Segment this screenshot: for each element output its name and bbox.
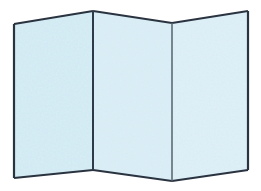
panel-right-texture	[168, 5, 254, 190]
panel-left-texture	[10, 5, 100, 190]
illustration-canvas: Folded panel / accordion-folded sheet	[0, 0, 261, 191]
panel-middle-texture	[90, 5, 178, 190]
panel-group	[10, 5, 254, 190]
folded-panel-figure	[0, 0, 261, 191]
